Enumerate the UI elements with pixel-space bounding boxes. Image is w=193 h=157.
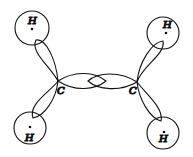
atom-label-h4: H xyxy=(158,133,168,144)
atom-label-h3: H xyxy=(24,132,34,143)
atom-label-h1: H xyxy=(27,15,37,26)
bond-lobe-c2-h4 xyxy=(137,82,161,121)
bond-lobe-c1-h3 xyxy=(32,81,58,118)
nucleus-dot-h1 xyxy=(31,28,34,31)
bond-lobe-c1-h1 xyxy=(35,40,58,81)
nucleus-dot-h2 xyxy=(165,32,168,35)
atom-label-c2: C xyxy=(129,85,137,96)
nucleus-dot-h3 xyxy=(29,126,32,129)
bond-lobe-c2-h2 xyxy=(137,41,163,82)
atom-label-c1: C xyxy=(57,85,65,96)
ethane-orbital-diagram: H H H H C C xyxy=(0,0,193,157)
atom-label-h2: H xyxy=(162,19,172,30)
